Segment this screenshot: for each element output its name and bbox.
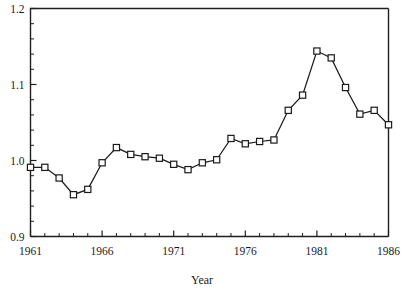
data-point-marker [99,160,105,166]
data-point-marker [128,151,134,157]
y-tick-label: 0.9 [10,231,25,243]
data-point-marker [42,164,48,170]
data-point-marker [228,135,234,141]
data-point-marker [199,160,205,166]
data-point-marker [371,107,377,113]
x-axis-ticks [31,231,389,237]
data-point-marker [271,137,277,143]
data-point-marker [385,122,391,128]
x-tick-label: 1986 [377,245,400,257]
x-tick-label: 1981 [305,245,328,257]
line-chart: 0.91.01.11.2 196119661971197619811986 Ye… [0,0,404,293]
y-tick-label: 1.2 [10,3,25,15]
data-point-marker [156,155,162,161]
data-point-marker [185,167,191,173]
data-point-marker [27,164,33,170]
data-point-marker [85,186,91,192]
x-tick-label: 1976 [234,245,257,257]
data-point-marker [70,192,76,198]
y-tick-label: 1.0 [10,155,25,167]
y-tick-label: 1.1 [10,79,25,91]
x-tick-label: 1961 [19,245,42,257]
data-point-marker [113,144,119,150]
y-axis-ticks [31,9,37,237]
data-point-marker [357,111,363,117]
data-point-marker [299,92,305,98]
data-point-marker [214,157,220,163]
plot-frame [31,9,389,237]
data-point-marker [56,175,62,181]
data-point-marker [342,84,348,90]
x-axis-tick-labels: 196119661971197619811986 [19,245,400,257]
data-point-marker [142,154,148,160]
y-axis-tick-labels: 0.91.01.11.2 [10,3,25,243]
x-tick-label: 1971 [162,245,185,257]
data-point-marker [328,55,334,61]
x-tick-label: 1966 [91,245,114,257]
chart-container: 0.91.01.11.2 196119661971197619811986 Ye… [0,0,404,293]
data-series-line [31,51,389,195]
data-point-marker [314,48,320,54]
data-point-marker [285,107,291,113]
x-axis-title: Year [191,273,213,287]
axis-frame [31,9,389,237]
data-point-marker [171,161,177,167]
data-point-marker [257,138,263,144]
data-point-marker [242,141,248,147]
